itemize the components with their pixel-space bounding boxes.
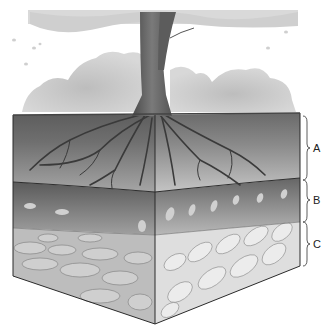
horizon-label-c: C: [313, 239, 321, 250]
soil-profile-diagram: [0, 0, 332, 332]
bracket-a: [303, 116, 310, 180]
bracket-c: [303, 222, 310, 266]
bracket-b: [303, 180, 310, 222]
horizon-brackets: [303, 116, 310, 266]
horizon-a-left: [13, 115, 155, 192]
horizon-label-b: B: [313, 195, 320, 206]
horizon-label-a: A: [313, 143, 320, 154]
